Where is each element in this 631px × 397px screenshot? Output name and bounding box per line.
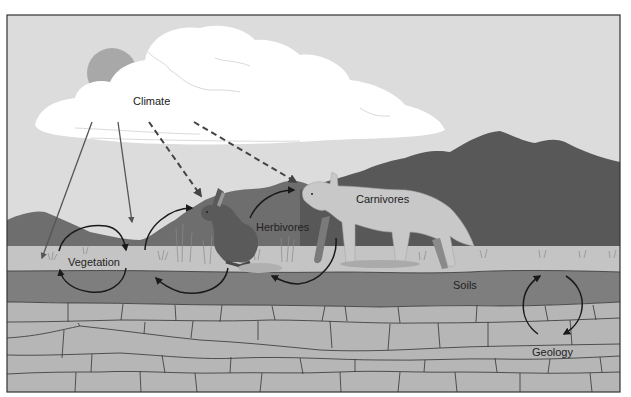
label-climate: Climate	[133, 95, 170, 107]
label-carnivores: Carnivores	[356, 193, 409, 205]
label-geology: Geology	[532, 346, 573, 358]
label-herbivores: Herbivores	[256, 221, 309, 233]
bedrock	[7, 302, 620, 392]
label-vegetation: Vegetation	[68, 256, 120, 268]
ecosystem-diagram	[0, 0, 631, 397]
label-soils: Soils	[453, 279, 477, 291]
